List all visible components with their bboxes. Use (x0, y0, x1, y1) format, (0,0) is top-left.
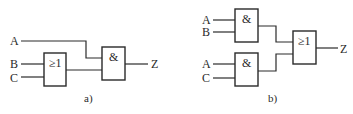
wire-and-top-to-or (258, 26, 293, 42)
output-label-b: Z (340, 42, 347, 56)
diagram-b: A B A C & & ≥1 Z b) (202, 9, 347, 105)
and-gate-a-symbol: & (109, 50, 119, 64)
logic-diagrams: A B C ≥1 & Z a) A B A C (0, 0, 353, 114)
wire-and-bottom-to-or (258, 54, 293, 71)
and-gate-bottom-symbol: & (242, 56, 252, 70)
input-label-b: B (202, 25, 210, 39)
or-gate-b-symbol: ≥1 (298, 34, 311, 48)
input-label-b: B (10, 57, 18, 71)
caption-b: b) (268, 92, 278, 105)
and-gate-top-symbol: & (242, 12, 252, 26)
input-label-c: C (202, 71, 210, 85)
input-label-c: C (10, 71, 18, 85)
caption-a: a) (84, 92, 93, 105)
or-gate-a-symbol: ≥1 (49, 56, 62, 70)
output-label-a: Z (151, 57, 158, 71)
input-label-a2: A (202, 57, 211, 71)
diagram-a: A B C ≥1 & Z a) (10, 34, 158, 105)
input-label-a: A (10, 34, 19, 48)
